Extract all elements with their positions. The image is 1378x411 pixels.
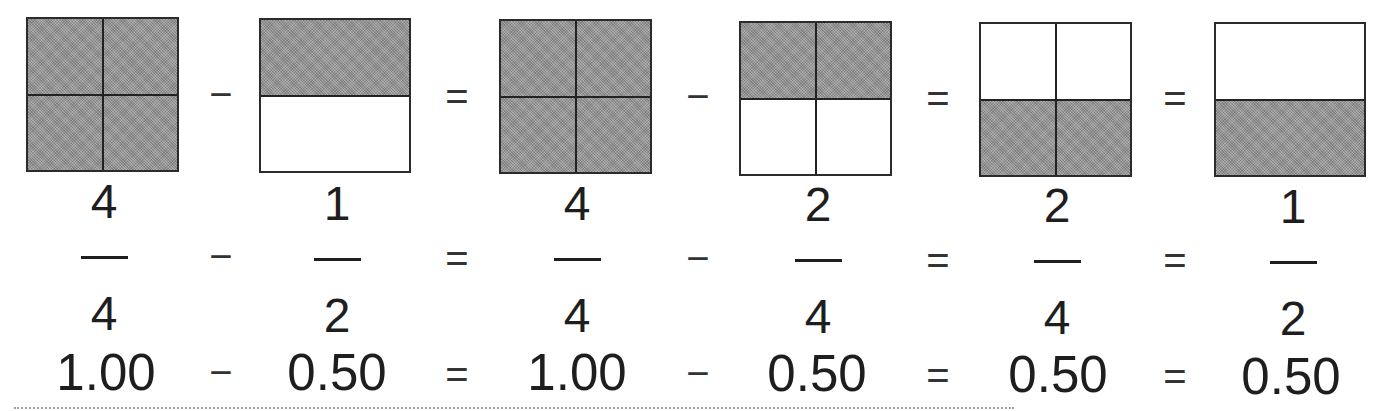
fraction-3: 4 4 xyxy=(517,180,637,340)
minus-operator-decimal-1: − xyxy=(201,352,241,392)
fraction-bar xyxy=(554,258,601,261)
horizontal-divider xyxy=(1216,99,1364,101)
equals-operator-3: = xyxy=(1155,78,1195,118)
equals-operator-fraction-2: = xyxy=(918,240,958,280)
denominator: 4 xyxy=(997,294,1117,342)
horizontal-divider xyxy=(261,95,409,97)
shaded-cell-bottom-left xyxy=(28,95,103,171)
decimal-3: 1.00 xyxy=(527,347,626,398)
shaded-cell-top-right xyxy=(576,21,651,97)
empty-cell-top xyxy=(1216,24,1364,100)
fraction-bar xyxy=(314,258,361,261)
empty-cell-bottom xyxy=(261,96,409,172)
decimal-2: 0.50 xyxy=(287,347,386,398)
equals-operator-decimal-1: = xyxy=(437,354,477,394)
minus-operator-fraction-1: − xyxy=(201,236,241,276)
dotted-divider-line xyxy=(14,407,1014,409)
equals-operator-2: = xyxy=(918,78,958,118)
shaded-cell-top-right xyxy=(816,23,891,99)
numerator: 4 xyxy=(517,180,637,228)
fraction-bar xyxy=(795,259,842,262)
horizontal-divider xyxy=(501,96,650,98)
decimal-6: 0.50 xyxy=(1241,351,1340,402)
fraction-6: 1 2 xyxy=(1233,183,1353,343)
numerator: 1 xyxy=(1233,183,1353,231)
fraction-box-4-two-quarters-top xyxy=(739,21,892,176)
numerator: 2 xyxy=(758,181,878,229)
fraction-2: 1 2 xyxy=(277,180,397,340)
shaded-cell-top-left xyxy=(741,23,816,99)
equals-operator-fraction-1: = xyxy=(437,238,477,278)
empty-cell-bottom-left xyxy=(741,99,816,175)
denominator: 2 xyxy=(1233,295,1353,343)
denominator: 4 xyxy=(44,290,164,338)
minus-operator-decimal-2: − xyxy=(678,353,718,393)
shaded-cell-bottom-left xyxy=(981,100,1056,176)
fraction-1: 4 4 xyxy=(44,178,164,338)
numerator: 2 xyxy=(997,182,1117,230)
shaded-cell-top-left xyxy=(501,21,576,97)
shaded-cell-bottom-right xyxy=(576,97,651,173)
fraction-bar xyxy=(1270,261,1317,264)
decimal-4: 0.50 xyxy=(767,348,866,399)
fraction-box-1-four-quarters xyxy=(26,17,179,172)
shaded-cell-top xyxy=(261,20,409,96)
equals-operator-decimal-3: = xyxy=(1155,356,1195,396)
fraction-bar xyxy=(1034,260,1081,263)
horizontal-divider xyxy=(981,99,1130,101)
empty-cell-bottom-right xyxy=(816,99,891,175)
minus-operator-1: − xyxy=(201,74,241,114)
empty-cell-top-left xyxy=(981,24,1056,100)
empty-cell-top-right xyxy=(1056,24,1131,100)
horizontal-divider xyxy=(28,94,177,96)
equals-operator-fraction-3: = xyxy=(1155,240,1195,280)
denominator: 4 xyxy=(758,293,878,341)
fraction-5: 2 4 xyxy=(997,182,1117,342)
minus-operator-fraction-2: − xyxy=(678,238,718,278)
fraction-4: 2 4 xyxy=(758,181,878,341)
equals-operator-1: = xyxy=(437,76,477,116)
shaded-cell-bottom-right xyxy=(1056,100,1131,176)
minus-operator-2: − xyxy=(678,76,718,116)
shaded-cell-top-left xyxy=(28,19,103,95)
decimal-1: 1.00 xyxy=(56,347,155,398)
denominator: 2 xyxy=(277,292,397,340)
shaded-cell-bottom-left xyxy=(501,97,576,173)
equals-operator-decimal-2: = xyxy=(918,355,958,395)
fraction-box-5-two-quarters-bottom xyxy=(979,22,1132,177)
shaded-cell-top-right xyxy=(103,19,178,95)
decimal-5: 0.50 xyxy=(1008,349,1107,400)
horizontal-divider xyxy=(741,98,890,100)
shaded-cell-bottom xyxy=(1216,100,1364,176)
numerator: 1 xyxy=(277,180,397,228)
fraction-box-6-one-half-bottom xyxy=(1214,22,1366,177)
denominator: 4 xyxy=(517,292,637,340)
numerator: 4 xyxy=(44,178,164,226)
shaded-cell-bottom-right xyxy=(103,95,178,171)
fraction-bar xyxy=(81,256,128,259)
fraction-box-2-one-half xyxy=(259,18,411,173)
fraction-box-3-four-quarters xyxy=(499,19,652,174)
